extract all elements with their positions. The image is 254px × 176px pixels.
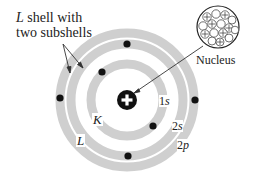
electron-2p-right bbox=[191, 96, 198, 103]
l-shell-label: L bbox=[76, 134, 85, 147]
subshell-letter: p bbox=[183, 138, 189, 152]
electron-2p-left bbox=[56, 94, 63, 101]
subshell-2s-label: 2s bbox=[172, 120, 183, 132]
magnified-nucleus bbox=[197, 6, 239, 48]
subshell-1s-label: 1s bbox=[159, 95, 170, 107]
electron-2s-bottom bbox=[124, 152, 131, 159]
subshell-letter: s bbox=[165, 94, 170, 108]
electron-1s-a bbox=[98, 68, 105, 75]
title-line2: two subshells bbox=[16, 25, 92, 40]
k-shell-label: K bbox=[92, 113, 103, 126]
title-line1: shell with bbox=[24, 10, 82, 25]
electron-2s-top bbox=[123, 40, 130, 47]
l-shell-title-label: L shell with two subshells bbox=[16, 10, 92, 40]
subshell-letter: s bbox=[178, 119, 183, 133]
l-letter: L bbox=[16, 10, 24, 25]
plus-icon-vertical bbox=[125, 95, 128, 106]
electron-1s-b bbox=[149, 122, 156, 129]
nucleus-label: Nucleus bbox=[196, 54, 235, 66]
subshell-2p-label: 2p bbox=[177, 139, 189, 151]
